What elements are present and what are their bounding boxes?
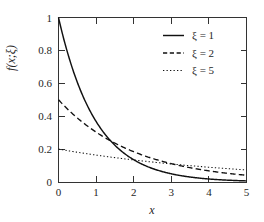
y-tick-label: 0 <box>47 176 53 188</box>
legend-label-xi-1: ξ = 1 <box>192 29 214 42</box>
x-tick-label: 5 <box>244 186 250 198</box>
x-tick-label: 0 <box>56 186 62 198</box>
x-tick-label: 1 <box>93 186 99 198</box>
y-tick-label: 0.6 <box>38 77 52 89</box>
y-axis-title: f(x;ξ) <box>4 45 18 71</box>
y-tick-label: 1 <box>47 12 53 24</box>
legend-label-xi-5: ξ = 5 <box>192 64 215 77</box>
y-tick-label: 0.2 <box>38 143 52 155</box>
chart-figure: 0 0.2 0.4 0.6 0.8 1 0 1 2 3 4 5 x f(x;ξ) <box>0 0 264 222</box>
y-tick-label: 0.4 <box>38 110 52 122</box>
legend-label-xi-2: ξ = 2 <box>192 47 214 60</box>
y-tick-label: 0.8 <box>38 44 52 56</box>
x-tick-label: 2 <box>131 186 137 198</box>
exponential-decay-plot: 0 0.2 0.4 0.6 0.8 1 0 1 2 3 4 5 x f(x;ξ) <box>0 0 264 222</box>
x-axis-title: x <box>148 203 155 217</box>
x-tick-label: 3 <box>169 186 175 198</box>
x-tick-label: 4 <box>206 186 212 198</box>
